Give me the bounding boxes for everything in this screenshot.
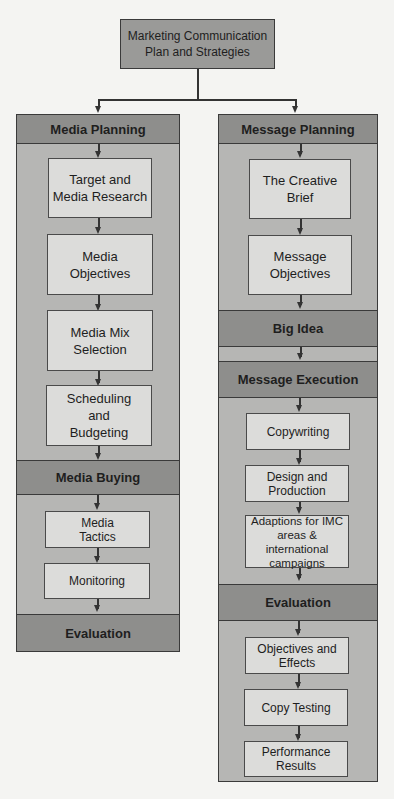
arrow-icon xyxy=(295,734,301,741)
connector-horizontal xyxy=(98,99,296,101)
arrow-icon xyxy=(297,151,303,158)
arrow-icon xyxy=(95,151,101,158)
arrow-icon xyxy=(292,106,298,113)
message-evaluation-label: Evaluation xyxy=(265,595,331,610)
step-copywriting: Copywriting xyxy=(246,413,350,450)
title-line-2: Plan and Strategies xyxy=(128,44,267,60)
arrow-icon xyxy=(297,353,303,360)
step-copy-testing: Copy Testing xyxy=(244,689,348,726)
step-target-media-research: Target and Media Research xyxy=(48,158,152,218)
step-text: Adaptions for IMC xyxy=(246,514,348,528)
step-text: campaigns xyxy=(246,556,348,570)
step-text: Effects xyxy=(257,656,336,670)
title-line-1: Marketing Communication xyxy=(128,28,267,44)
media-buying-label: Media Buying xyxy=(56,470,141,485)
media-buying-header: Media Buying xyxy=(17,460,179,495)
arrow-icon xyxy=(296,405,302,412)
big-idea-label: Big Idea xyxy=(273,321,324,336)
arrow-icon xyxy=(295,629,301,636)
media-planning-label: Media Planning xyxy=(50,122,145,137)
step-text: The Creative xyxy=(263,172,337,189)
step-text: Media xyxy=(70,248,131,265)
message-planning-label: Message Planning xyxy=(241,122,354,137)
step-text: Tactics xyxy=(79,530,116,544)
big-idea-header: Big Idea xyxy=(219,310,377,347)
arrow-icon xyxy=(295,682,301,689)
message-planning-panel: Message Planning The Creative Brief Mess… xyxy=(218,114,378,782)
step-creative-brief: The Creative Brief xyxy=(249,159,351,219)
step-media-objectives: Media Objectives xyxy=(47,234,153,295)
step-text: Message xyxy=(270,248,331,265)
step-text: Design and xyxy=(267,470,328,484)
step-design-production: Design and Production xyxy=(245,465,349,502)
arrow-icon xyxy=(95,227,101,234)
plan-and-strategies-box: Marketing Communication Plan and Strateg… xyxy=(120,19,275,69)
step-text: Performance xyxy=(262,745,331,759)
step-media-mix-selection: Media Mix Selection xyxy=(47,310,153,371)
step-text: Copy Testing xyxy=(261,701,330,715)
step-text: Objectives and xyxy=(257,642,336,656)
step-text: Media Mix xyxy=(70,324,129,341)
step-scheduling-budgeting: Scheduling and Budgeting xyxy=(46,385,152,446)
step-text: Objectives xyxy=(70,265,131,282)
step-text: Media xyxy=(79,516,116,530)
step-text: Brief xyxy=(263,189,337,206)
message-execution-label: Message Execution xyxy=(238,372,359,387)
step-performance-results: Performance Results xyxy=(244,741,348,777)
step-text: Monitoring xyxy=(69,574,125,588)
arrow-icon xyxy=(94,556,100,563)
arrow-icon xyxy=(296,458,302,465)
step-text: Copywriting xyxy=(267,425,330,439)
message-execution-header: Message Execution xyxy=(219,361,377,398)
step-text: areas & international xyxy=(246,528,348,556)
step-text: Scheduling xyxy=(67,390,131,407)
step-text: Budgeting xyxy=(67,424,131,441)
step-text: Target and xyxy=(53,171,148,188)
arrow-icon xyxy=(95,106,101,113)
step-text: and xyxy=(67,407,131,424)
step-monitoring: Monitoring xyxy=(44,563,150,599)
arrow-icon xyxy=(296,574,302,581)
step-text: Results xyxy=(262,759,331,773)
step-objectives-effects: Objectives and Effects xyxy=(245,637,349,674)
arrow-icon xyxy=(297,228,303,235)
media-evaluation-footer: Evaluation xyxy=(17,614,179,651)
arrow-icon xyxy=(94,605,100,612)
step-adaptions: Adaptions for IMC areas & international … xyxy=(245,515,349,568)
media-planning-header: Media Planning xyxy=(17,115,179,144)
media-planning-panel: Media Planning Target and Media Research… xyxy=(16,114,180,652)
step-media-tactics: Media Tactics xyxy=(45,511,150,548)
arrow-icon xyxy=(94,503,100,510)
connector-top-stem xyxy=(197,69,199,99)
step-text: Objectives xyxy=(270,265,331,282)
step-message-objectives: Message Objectives xyxy=(248,235,352,295)
message-planning-header: Message Planning xyxy=(219,115,377,144)
step-text: Production xyxy=(267,484,328,498)
media-evaluation-label: Evaluation xyxy=(65,626,131,641)
step-text: Selection xyxy=(70,341,129,358)
arrow-icon xyxy=(95,453,101,460)
message-evaluation-header: Evaluation xyxy=(219,584,377,621)
step-text: Media Research xyxy=(53,188,148,205)
arrow-icon xyxy=(297,302,303,309)
